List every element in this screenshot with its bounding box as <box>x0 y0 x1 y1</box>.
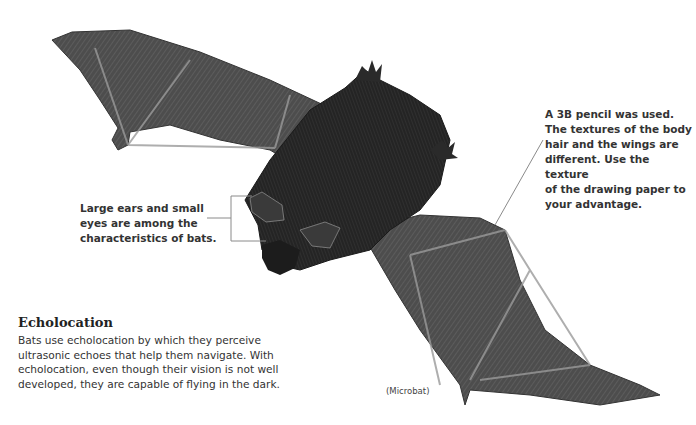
section-body: Bats use echolocation by which they perc… <box>18 333 318 391</box>
ears-eyes-note: Large ears and small eyes are among the … <box>80 201 230 246</box>
echolocation-section: Echolocation Bats use echolocation by wh… <box>18 315 318 391</box>
section-title: Echolocation <box>18 315 318 331</box>
species-caption: (Microbat) <box>386 386 429 396</box>
bat-foot-upper <box>355 60 382 82</box>
pencil-leader-line <box>495 140 543 225</box>
pencil-technique-note: A 3B pencil was used. The textures of th… <box>545 107 695 212</box>
